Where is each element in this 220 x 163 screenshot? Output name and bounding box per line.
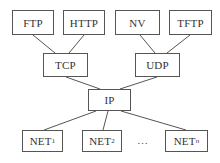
node-label: NET — [89, 135, 111, 147]
node-tftp: TFTP — [169, 10, 212, 35]
node-label: NV — [129, 17, 145, 29]
node-net1: NET1 — [22, 130, 63, 152]
edge-udp-ip — [120, 77, 157, 89]
node-http: HTTP — [63, 10, 105, 35]
node-label: TCP — [55, 59, 76, 71]
edge-nv-udp — [140, 35, 155, 53]
node-label: TFTP — [177, 17, 203, 29]
node-subscript: n — [196, 137, 200, 145]
edge-ip-netn — [121, 111, 186, 130]
node-nv: NV — [115, 10, 160, 35]
node-label: NET — [30, 135, 52, 147]
edge-ftp-tcp — [33, 35, 55, 53]
node-label: HTTP — [70, 17, 98, 29]
node-ip: IP — [88, 89, 131, 111]
edge-tcp-ip — [66, 77, 100, 89]
edge-tftp-udp — [167, 35, 190, 53]
node-ftp: FTP — [12, 10, 54, 35]
node-net2: NET2 — [82, 130, 122, 152]
node-label: FTP — [23, 17, 43, 29]
edge-ip-net2 — [103, 111, 108, 130]
node-subscript: 2 — [111, 137, 115, 145]
node-label: UDP — [146, 59, 169, 71]
node-label: IP — [104, 94, 114, 106]
edge-http-tcp — [69, 35, 84, 53]
node-label: NET — [174, 135, 196, 147]
node-tcp: TCP — [43, 53, 88, 77]
node-udp: UDP — [135, 53, 180, 77]
node-netn: NETn — [165, 130, 208, 152]
edge-ip-net1 — [44, 111, 96, 130]
ellipsis: … — [137, 134, 148, 146]
node-subscript: 1 — [52, 137, 56, 145]
